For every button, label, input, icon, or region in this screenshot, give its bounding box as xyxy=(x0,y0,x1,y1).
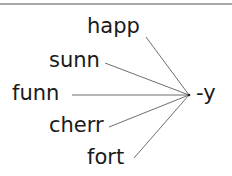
stem-happ: happ xyxy=(87,16,140,37)
stem-sunn: sunn xyxy=(49,50,100,71)
suffix-y: -y xyxy=(196,83,216,104)
stem-funn: funn xyxy=(12,83,59,104)
connector-line xyxy=(134,95,189,158)
connector-line xyxy=(105,63,189,95)
stem-fort: fort xyxy=(87,147,124,168)
connector-line xyxy=(109,95,189,127)
junction-dot xyxy=(188,94,191,97)
stem-cherr: cherr xyxy=(49,115,104,136)
